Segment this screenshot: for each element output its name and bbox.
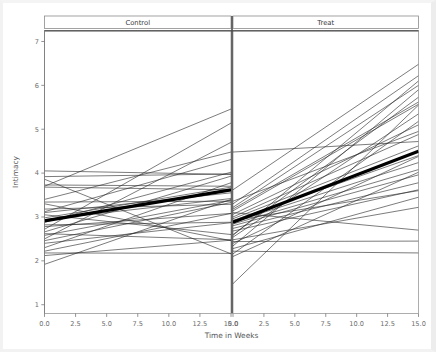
y-tick-label: 3 <box>35 213 39 221</box>
panel-strip-label-treat: Treat <box>316 19 334 27</box>
spaghetti-plot: ControlTreat12345670.02.55.07.510.012.51… <box>0 0 436 352</box>
x-tick-label: 2.5 <box>259 320 270 328</box>
x-tick-label: 0.0 <box>228 320 239 328</box>
x-tick-label: 5.0 <box>290 320 301 328</box>
y-tick-label: 2 <box>35 257 39 265</box>
x-tick-label: 10.0 <box>161 320 176 328</box>
y-tick-label: 4 <box>35 169 39 177</box>
x-axis-title: Time in Weeks <box>204 331 259 340</box>
chart-figure: ControlTreat12345670.02.55.07.510.012.51… <box>0 0 436 352</box>
x-tick-label: 2.5 <box>70 320 81 328</box>
x-tick-label: 10.0 <box>349 320 364 328</box>
y-tick-label: 7 <box>35 38 39 46</box>
x-axis-treat: 0.02.55.07.510.012.515.0 <box>228 314 426 328</box>
x-tick-label: 5.0 <box>101 320 112 328</box>
x-axis-control: 0.02.55.07.510.012.515.0 <box>39 314 238 328</box>
y-tick-label: 1 <box>35 301 39 309</box>
panel-frame-treat <box>233 31 419 314</box>
y-tick-label: 6 <box>35 82 39 90</box>
y-tick-label: 5 <box>35 126 39 134</box>
y-axis-title: Intimacy <box>11 155 20 188</box>
x-tick-label: 15.0 <box>411 320 426 328</box>
x-tick-label: 7.5 <box>321 320 332 328</box>
x-tick-label: 12.5 <box>380 320 395 328</box>
x-tick-label: 7.5 <box>133 320 144 328</box>
panel-frame-control <box>45 31 232 314</box>
x-tick-label: 0.0 <box>39 320 50 328</box>
x-tick-label: 12.5 <box>193 320 208 328</box>
y-axis: 1234567 <box>35 38 45 309</box>
panel-strip-label-control: Control <box>125 19 150 27</box>
